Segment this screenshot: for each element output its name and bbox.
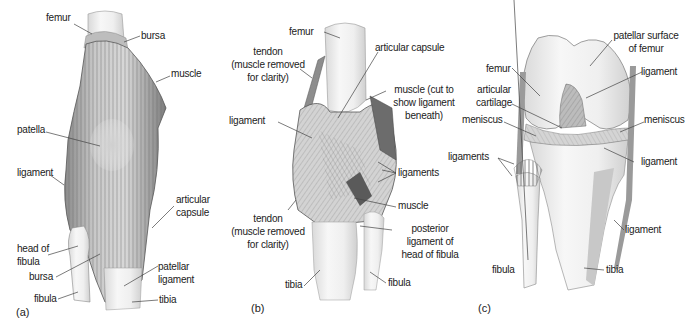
label-articular-capsule-a-1: articular [176,194,210,206]
label-tibia-a: tibia [159,294,176,306]
label-patellar-surface-c-2: of femur [604,43,688,55]
label-tendon-top-b-1: tendon [226,46,310,58]
label-muscle-cut-b-3: beneath) [386,110,462,122]
label-head-of-fibula-a-2: fibula [17,256,40,268]
label-fibula-a: fibula [34,293,57,305]
label-tibia-c: tibia [606,264,623,276]
panel-label-b: (b) [251,302,264,314]
label-tendon-top-b-3: for clarity) [226,72,310,84]
label-ligaments-b: ligaments [398,167,439,179]
label-tendon-bottom-b-1: tendon [226,213,310,225]
label-patellar-ligament-a-2: ligament [158,274,194,286]
label-muscle-a: muscle [171,68,201,80]
label-bursa-bottom-a: bursa [29,271,53,283]
label-ligament-mid-c: ligament [641,156,677,168]
label-posterior-ligament-b-2: ligament of [390,236,470,248]
label-articular-capsule-a-2: capsule [176,207,209,219]
label-muscle-cut-b-1: muscle (cut to [386,84,462,96]
panel-c-artwork [514,35,636,290]
label-ligament-low-c: ligament [625,224,661,236]
label-tibia-b: tibia [285,279,302,291]
label-muscle-cut-b-2: show ligament [386,97,462,109]
label-femur-b: femur [289,26,314,38]
panel-label-a: (a) [16,306,29,318]
label-patella-a: patella [17,124,45,136]
label-posterior-ligament-b-1: posterior [390,223,470,235]
label-head-of-fibula-a-1: head of [17,243,49,255]
label-ligament-top-c: ligament [641,66,677,78]
label-meniscus-right-c: meniscus [644,114,685,126]
label-ligaments-c: ligaments [448,151,489,163]
label-muscle-b: muscle [398,200,428,212]
label-femur-a: femur [46,12,71,24]
label-articular-cartilage-c-2: cartilage [470,97,518,109]
label-tendon-top-b-2: (muscle removed [226,59,310,71]
label-patellar-surface-c-1: patellar surface [604,30,688,42]
label-bursa-top-a: bursa [141,30,165,42]
label-ligament-a: ligament [17,167,53,179]
panel-a-artwork [65,11,166,310]
label-ligament-b: ligament [229,115,265,127]
label-tendon-bottom-b-3: for clarity) [226,239,310,251]
label-fibula-c: fibula [492,264,515,276]
label-fibula-b: fibula [388,277,411,289]
label-posterior-ligament-b-3: head of fibula [390,249,470,261]
label-articular-capsule-b: articular capsule [375,42,444,54]
label-patellar-ligament-a-1: patellar [158,261,189,273]
label-meniscus-left-c: meniscus [462,114,503,126]
label-femur-c: femur [486,63,511,75]
label-tendon-bottom-b-2: (muscle removed [226,226,310,238]
knee-joint-illustration [0,0,694,326]
label-articular-cartilage-c-1: articular [470,84,518,96]
panel-label-c: (c) [478,302,491,314]
